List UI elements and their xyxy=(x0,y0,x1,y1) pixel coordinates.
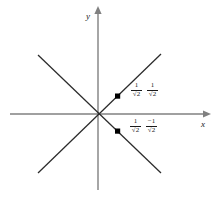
point-marker-eigenvector-2 xyxy=(115,129,120,134)
plot-canvas xyxy=(0,0,216,205)
upper-y-denominator: √2 xyxy=(148,91,157,98)
y-axis-label: y xyxy=(86,12,90,21)
upper-x-denominator: √2 xyxy=(132,91,141,98)
x-axis-label: x xyxy=(201,120,205,129)
lower-x-denominator: √2 xyxy=(131,127,140,134)
y-axis xyxy=(94,6,101,190)
upper-x-numerator: 1 xyxy=(134,82,140,89)
lower-y-component-fraction: −1 √2 xyxy=(146,118,157,135)
upper-x-component-fraction: 1 √2 xyxy=(131,82,142,99)
lower-x-numerator: 1 xyxy=(133,118,139,125)
x-axis xyxy=(10,110,211,117)
eigenvector-diagram: y x 1 √2 1 √2 1 √2 −1 √2 xyxy=(0,0,216,205)
lower-point-coordinate-label: 1 √2 −1 √2 xyxy=(130,118,157,135)
lower-x-component-fraction: 1 √2 xyxy=(130,118,141,135)
upper-y-component-fraction: 1 √2 xyxy=(147,82,158,99)
lower-y-denominator: √2 xyxy=(147,127,156,134)
upper-y-numerator: 1 xyxy=(150,82,156,89)
upper-point-coordinate-label: 1 √2 1 √2 xyxy=(131,82,158,99)
lower-y-numerator: −1 xyxy=(147,118,156,125)
point-marker-eigenvector-1 xyxy=(115,94,120,99)
